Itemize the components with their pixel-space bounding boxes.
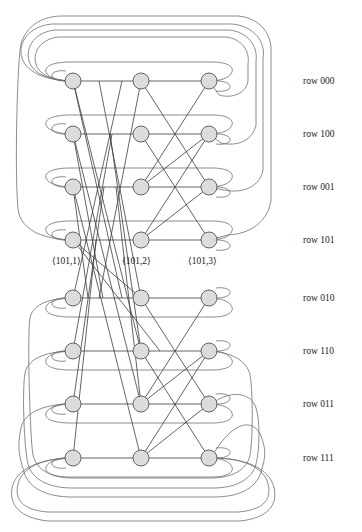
node-010-c2[interactable] (133, 290, 149, 306)
network-diagram-svg: row 000 row 100 row 001 row 101 row 010 … (0, 0, 362, 532)
node-000-c2[interactable] (133, 73, 149, 89)
node-001-c3[interactable] (201, 179, 217, 195)
x-edge-b5 (141, 351, 209, 404)
node-100-c3[interactable] (201, 126, 217, 142)
row-labels-layer: row 000 row 100 row 001 row 101 row 010 … (303, 76, 335, 463)
row-label-111: row 111 (303, 453, 334, 463)
node-011-c2[interactable] (133, 396, 149, 412)
row-label-000: row 000 (303, 76, 335, 86)
node-001-c1[interactable] (65, 179, 81, 195)
row-label-001: row 001 (303, 182, 335, 192)
node-001-c2[interactable] (133, 179, 149, 195)
diag-c1-001-111 (73, 187, 141, 458)
node-010-c3[interactable] (201, 290, 217, 306)
row-label-110: row 110 (303, 346, 334, 356)
node-label-101-3: ⟨101,3⟩ (188, 256, 217, 266)
node-111-c2[interactable] (133, 450, 149, 466)
node-100-c2[interactable] (133, 126, 149, 142)
node-101-c3[interactable] (201, 232, 217, 248)
x-edge-b6 (141, 404, 209, 458)
node-110-c2[interactable] (133, 343, 149, 359)
node-label-101-2: ⟨101,2⟩ (122, 256, 151, 266)
diag-c1-101-010 (73, 240, 141, 298)
row-label-010: row 010 (303, 293, 335, 303)
bundle-edge-2 (73, 134, 103, 298)
node-110-c3[interactable] (201, 343, 217, 359)
diagram-canvas: row 000 row 100 row 001 row 101 row 010 … (0, 0, 362, 532)
wrap-arc-b-5 (12, 458, 275, 521)
node-label-101-1: ⟨101,1⟩ (52, 256, 81, 266)
wrap-arc-outer-1 (21, 24, 264, 191)
node-111-c3[interactable] (201, 450, 217, 466)
node-101-c1[interactable] (65, 232, 81, 248)
row-label-011: row 011 (303, 399, 334, 409)
x-edge-t6 (141, 187, 209, 240)
node-101-c2[interactable] (133, 232, 149, 248)
node-110-c1[interactable] (65, 343, 81, 359)
node-011-c1[interactable] (65, 396, 81, 412)
node-000-c1[interactable] (65, 73, 81, 89)
row-label-101: row 101 (303, 235, 335, 245)
x-edge-t5 (141, 134, 209, 187)
node-010-c1[interactable] (65, 290, 81, 306)
node-100-c1[interactable] (65, 126, 81, 142)
node-011-c3[interactable] (201, 396, 217, 412)
node-111-c1[interactable] (65, 450, 81, 466)
row-label-100: row 100 (303, 129, 335, 139)
wrap-arc-b-2 (24, 351, 259, 488)
node-labels-layer: ⟨101,1⟩ ⟨101,2⟩ ⟨101,3⟩ (52, 256, 217, 266)
node-000-c3[interactable] (201, 73, 217, 89)
